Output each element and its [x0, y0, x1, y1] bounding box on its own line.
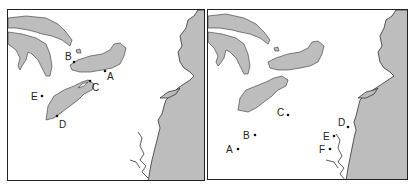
label-e: E: [323, 131, 330, 142]
lake-ontario: [70, 43, 126, 72]
lake-huron: [208, 14, 270, 74]
point-a: [104, 70, 107, 73]
point-c: [89, 80, 92, 83]
points-right: A B C D E F: [226, 107, 349, 155]
label-b: B: [243, 130, 250, 141]
label-f: F: [319, 144, 325, 155]
point-d: [56, 115, 59, 118]
island: [274, 47, 279, 51]
map-right-svg: A B C D E F: [208, 10, 408, 180]
label-e: E: [31, 91, 38, 102]
label-c: C: [277, 107, 284, 118]
point-e: [333, 135, 336, 138]
point-f: [329, 148, 332, 151]
map-right: A B C D E F: [207, 9, 408, 180]
point-b: [73, 61, 76, 64]
point-b: [254, 134, 257, 137]
island: [76, 49, 81, 53]
point-d: [347, 126, 350, 129]
label-b: B: [65, 51, 72, 62]
point-a: [237, 148, 240, 151]
map-left: A B C D E: [7, 9, 205, 181]
lake-huron: [8, 16, 72, 76]
point-e: [41, 95, 44, 98]
map-left-svg: A B C D E: [8, 10, 205, 181]
label-a: A: [107, 71, 114, 82]
point-c: [287, 114, 290, 117]
lake-ontario: [268, 41, 324, 70]
label-d: D: [59, 119, 66, 130]
coastal-land: [346, 10, 408, 180]
label-a: A: [226, 144, 233, 155]
label-d: D: [338, 117, 345, 128]
lake-erie: [46, 80, 94, 120]
chesapeake-bay: [130, 132, 148, 178]
label-c: C: [92, 82, 99, 93]
coastal-land: [148, 10, 205, 181]
